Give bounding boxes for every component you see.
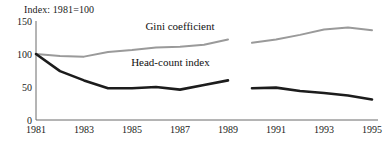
series-line	[36, 39, 228, 56]
x-tick-label: 1991	[266, 124, 286, 135]
x-tick-label: 1985	[122, 124, 142, 135]
series-line	[252, 28, 372, 43]
x-tick-label: 1993	[314, 124, 334, 135]
y-tick-label: 150	[17, 16, 32, 27]
x-tick-label: 1987	[170, 124, 190, 135]
x-tick-label: 1981	[26, 124, 46, 135]
chart-axes	[36, 21, 378, 120]
line-chart-plot: 050100150 198119831985198719891991199319…	[0, 0, 384, 145]
series-label: Gini coefficient	[145, 20, 214, 32]
x-tick-label: 1983	[74, 124, 94, 135]
y-tick-label: 50	[22, 82, 32, 93]
x-tick-labels: 19811983198519871989199119931995	[26, 124, 382, 135]
chart-container: Index: 1981=100 050100150 19811983198519…	[0, 0, 384, 145]
series-label: Head-count index	[131, 56, 210, 68]
x-tick-label: 1995	[362, 124, 382, 135]
y-tick-labels: 050100150	[17, 16, 32, 126]
y-tick-label: 100	[17, 49, 32, 60]
x-tick-label: 1989	[218, 124, 238, 135]
series-line	[252, 88, 372, 100]
